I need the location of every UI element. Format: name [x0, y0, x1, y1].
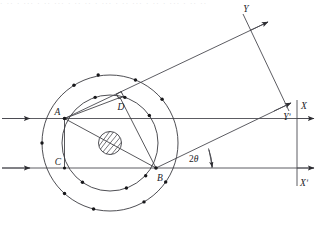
figure-root: · ·· · ··· · ·· ··· · ·· ·· · ··· · ·· ·…	[0, 0, 324, 232]
chord-d-to-b	[120, 98, 156, 169]
angle-arc-group	[209, 149, 213, 169]
hatched-core	[96, 130, 125, 160]
chord-a-to-b	[65, 119, 157, 169]
right-angle-square	[116, 92, 123, 99]
outer-circle-dot	[40, 141, 43, 144]
optics-ray-diagram-svg: A B C D X Xʹ Y Yʹ 2θ	[0, 0, 324, 232]
outer-circle-dot-group	[40, 73, 167, 210]
inner-circle-dot	[144, 174, 147, 177]
label-axis-y-prime: Yʹ	[283, 112, 291, 122]
inner-circle-dot	[123, 96, 126, 99]
scan-artifact-strip: · ·· · ··· · ·· ··· · ·· ·· · ··· · ·· ·…	[0, 0, 324, 7]
label-point-b: B	[157, 173, 163, 183]
label-angle-2theta: 2θ	[189, 154, 199, 164]
outer-circle-dot	[134, 78, 137, 81]
outer-circle-dot	[63, 192, 66, 195]
outer-circle-dot	[72, 84, 75, 87]
outgoing-ray-upper-arrowhead	[250, 22, 268, 31]
angle-arc-arrowhead-lower	[209, 150, 212, 167]
label-axis-x-prime: Xʹ	[299, 178, 309, 188]
vertex-dot-b	[154, 166, 158, 170]
y-axis-group	[243, 14, 289, 111]
label-angle-symbol: θ	[194, 154, 199, 164]
inner-circle-dot	[125, 186, 128, 189]
vertex-dot-c	[63, 166, 66, 169]
outer-circle-dot	[92, 207, 95, 210]
outer-circle-dot	[160, 98, 163, 101]
inner-circle-dot	[81, 181, 84, 184]
vertex-dot-a	[63, 117, 67, 121]
outer-circle-dot	[164, 180, 167, 183]
chord-a-to-d	[65, 98, 121, 119]
outgoing-ray-lower	[156, 103, 291, 168]
right-angle-marker-d	[116, 92, 123, 99]
label-point-c: C	[55, 157, 62, 167]
outer-circle-dot	[96, 73, 99, 76]
label-point-d: D	[117, 102, 125, 112]
outer-circle-dot	[142, 200, 145, 203]
core-hatching	[96, 130, 125, 160]
inner-circle-dot	[93, 96, 96, 99]
y-axis-line	[243, 14, 289, 111]
label-point-a: A	[54, 107, 61, 117]
inner-circle-dot	[148, 114, 151, 117]
label-axis-x: X	[300, 101, 308, 111]
